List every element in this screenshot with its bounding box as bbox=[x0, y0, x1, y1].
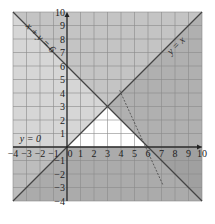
y-tick-label: −2 bbox=[54, 169, 65, 180]
y-tick-label: 6 bbox=[60, 61, 65, 72]
y-tick-label: 10 bbox=[55, 7, 65, 18]
y-tick-label: −3 bbox=[54, 182, 65, 193]
x-tick-label: 0 bbox=[68, 148, 73, 159]
x-tick-label: 8 bbox=[173, 148, 178, 159]
y-tick-label: 2 bbox=[60, 115, 65, 126]
y-tick-label: 4 bbox=[60, 88, 65, 99]
x-tick-label: 6 bbox=[146, 148, 151, 159]
inequality-graph: −4−3−2−1012345678910−4−3−2−112345678910 … bbox=[0, 0, 215, 224]
x-tick-label: 9 bbox=[186, 148, 191, 159]
x-tick-label: 1 bbox=[78, 148, 83, 159]
x-tick-label: 2 bbox=[92, 148, 97, 159]
x-tick-label: −2 bbox=[35, 148, 46, 159]
y-tick-label: 5 bbox=[60, 74, 65, 85]
x-tick-label: 10 bbox=[197, 148, 207, 159]
x-tick-label: 5 bbox=[132, 148, 137, 159]
label-y-equals-0: y = 0 bbox=[19, 133, 41, 144]
x-tick-label: 3 bbox=[105, 148, 110, 159]
x-tick-label: −3 bbox=[21, 148, 32, 159]
y-tick-label: 7 bbox=[60, 47, 65, 58]
y-tick-label: −1 bbox=[54, 155, 65, 166]
y-tick-label: 8 bbox=[60, 34, 65, 45]
x-tick-label: 4 bbox=[119, 148, 124, 159]
y-tick-label: 9 bbox=[60, 20, 65, 31]
y-tick-label: −4 bbox=[54, 196, 65, 207]
x-tick-label: −4 bbox=[8, 148, 19, 159]
y-tick-label: 1 bbox=[60, 128, 65, 139]
y-tick-label: 3 bbox=[60, 101, 65, 112]
x-tick-label: 7 bbox=[159, 148, 164, 159]
